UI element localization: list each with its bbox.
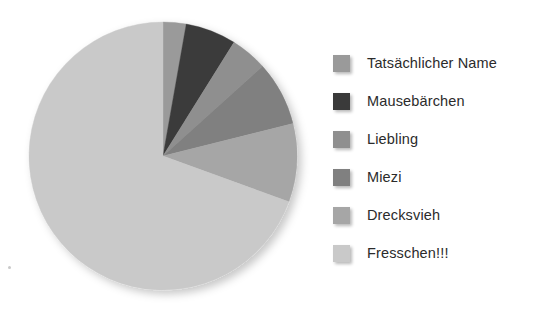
legend-swatch-icon — [333, 207, 350, 224]
legend-swatch-icon — [333, 93, 350, 110]
legend-item-label: Tatsächlicher Name — [367, 56, 497, 71]
pie-chart-svg — [0, 0, 330, 313]
scan-artifact-speck — [8, 266, 11, 269]
legend-item-label: Mausebärchen — [367, 94, 465, 109]
legend-swatch-icon — [333, 169, 350, 186]
legend-item-label: Liebling — [367, 132, 418, 147]
chart-legend: Tatsächlicher NameMausebärchenLieblingMi… — [333, 44, 539, 272]
pie-slice-group — [29, 22, 297, 290]
legend-item[interactable]: Drecksvieh — [333, 196, 539, 234]
legend-swatch-icon — [333, 55, 350, 72]
legend-item[interactable]: Liebling — [333, 120, 539, 158]
legend-item-label: Drecksvieh — [367, 208, 440, 223]
legend-item[interactable]: Miezi — [333, 158, 539, 196]
legend-item-label: Miezi — [367, 170, 402, 185]
legend-swatch-icon — [333, 131, 350, 148]
legend-item[interactable]: Mausebärchen — [333, 82, 539, 120]
legend-item-label: Fresschen!!! — [367, 246, 449, 261]
legend-item[interactable]: Tatsächlicher Name — [333, 44, 539, 82]
pie-chart — [0, 0, 330, 313]
chart-canvas: Tatsächlicher NameMausebärchenLieblingMi… — [0, 0, 541, 313]
legend-item[interactable]: Fresschen!!! — [333, 234, 539, 272]
legend-swatch-icon — [333, 245, 350, 262]
